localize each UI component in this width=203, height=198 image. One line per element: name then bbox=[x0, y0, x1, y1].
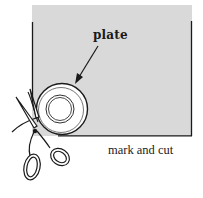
plate-label: plate bbox=[93, 28, 128, 42]
plate-icon bbox=[37, 84, 88, 135]
caption-mark-and-cut: mark and cut bbox=[108, 143, 173, 158]
